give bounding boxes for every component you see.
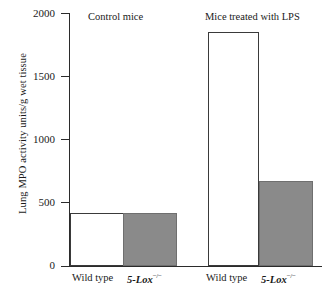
y-tick-label-500: 500 xyxy=(39,197,56,208)
y-tick-mark-1000 xyxy=(61,139,69,140)
bar-control-wild-type xyxy=(70,213,124,266)
bar-lps-wild-type xyxy=(208,32,259,266)
y-tick-label-0: 0 xyxy=(50,260,56,271)
y-tick-mark-500 xyxy=(61,202,69,203)
y-tick-label-1500: 1500 xyxy=(33,71,55,82)
y-tick-mark-0 xyxy=(61,266,69,267)
bar-chart-figure: Lung MPO activity units/g wet tissue 200… xyxy=(0,0,331,296)
y-tick-label-2000: 2000 xyxy=(33,8,55,19)
x-label-lps-superscript: −/− xyxy=(287,272,296,280)
x-label-lps-gene: 5-Lox xyxy=(261,274,287,285)
x-label-control-wild-type: Wild type xyxy=(72,272,113,283)
y-tick-mark-1500 xyxy=(61,76,69,77)
y-tick-mark-2000 xyxy=(61,13,69,14)
y-axis-title: Lung MPO activity units/g wet tissue xyxy=(17,9,28,259)
x-label-lps-wild-type: Wild type xyxy=(206,272,247,283)
y-tick-label-1000: 1000 xyxy=(33,134,55,145)
bar-lps-5lox-ko xyxy=(259,181,313,266)
x-label-control-superscript: −/− xyxy=(153,272,162,280)
bar-control-5lox-ko xyxy=(123,213,177,266)
x-label-lps-5lox-ko: 5-Lox−/− xyxy=(261,272,296,285)
x-label-control-5lox-ko: 5-Lox−/− xyxy=(127,272,162,285)
plot-area xyxy=(70,13,322,266)
x-label-control-gene: 5-Lox xyxy=(127,274,153,285)
x-axis-line xyxy=(69,266,322,267)
